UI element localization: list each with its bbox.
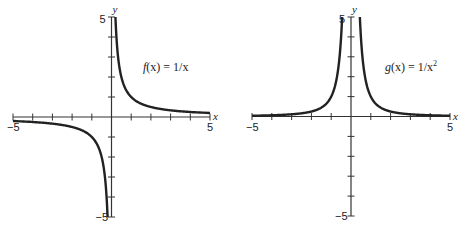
y-axis-label: y [351, 3, 357, 15]
x-min-label: −5 [246, 121, 259, 133]
graphs-figure: −555−5xyf(x) = 1/x −555−5xyg(x) = 1/x2 [0, 0, 464, 230]
y-axis-label: y [112, 3, 118, 15]
function-curve [252, 17, 342, 116]
plot-g-inverse-square: −555−5xyg(x) = 1/x2 [246, 3, 458, 222]
x-max-label: 5 [207, 121, 213, 133]
function-label: f(x) = 1/x [143, 60, 188, 74]
x-axis-label: x [212, 110, 218, 122]
function-curve [13, 121, 108, 217]
y-min-label: −5 [96, 211, 109, 223]
x-max-label: 5 [447, 121, 453, 133]
plot-f-reciprocal: −555−5xyf(x) = 1/x [7, 3, 218, 223]
y-min-label: −5 [335, 210, 348, 222]
x-min-label: −5 [7, 121, 20, 133]
y-max-label: 5 [100, 13, 106, 25]
x-axis-label: x [452, 110, 458, 122]
function-label: g(x) = 1/x2 [385, 59, 437, 74]
